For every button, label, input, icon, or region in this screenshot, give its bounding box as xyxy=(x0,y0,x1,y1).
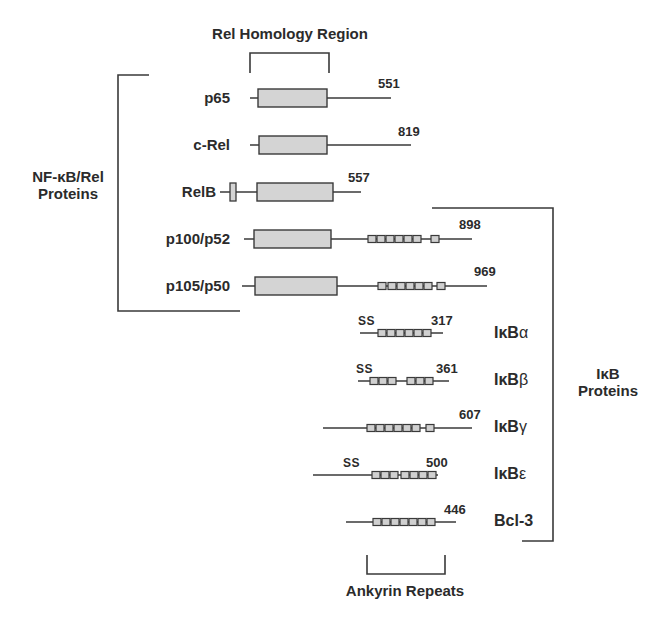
ankyrin-repeats-title: Ankyrin Repeats xyxy=(320,582,490,599)
nfkb-group-bracket xyxy=(118,75,240,311)
length-p100-p52: 898 xyxy=(459,217,481,232)
protein-name-ikb-gamma: IκBγ xyxy=(494,418,527,436)
protein-name-p65: p65 xyxy=(204,89,230,106)
rhr-domain-box xyxy=(258,89,327,107)
length-ikb-alpha: 317 xyxy=(431,313,453,328)
protein-ikb-alpha xyxy=(360,330,443,337)
protein-domain-diagram: Rel Homology Region Ankyrin Repeats NF-κ… xyxy=(0,0,658,617)
length-ikb-epsilon: 500 xyxy=(426,455,448,470)
ikb-group-label-line2: Proteins xyxy=(558,382,658,399)
ankyrin-repeats xyxy=(378,330,431,337)
protein-p105-p50 xyxy=(242,277,487,295)
protein-name-ikb-beta: IκBβ xyxy=(494,371,528,389)
length-bcl-3: 446 xyxy=(444,502,466,517)
protein-name-relb: RelB xyxy=(182,183,216,200)
length-relb: 557 xyxy=(348,170,370,185)
rel-homology-bracket xyxy=(250,53,329,73)
protein-relb xyxy=(220,183,361,201)
nfkb-group-label-line2: Proteins xyxy=(18,185,118,202)
protein-name-bcl-3: Bcl-3 xyxy=(494,512,533,530)
diagram-graphics xyxy=(0,0,658,617)
protein-ikb-epsilon xyxy=(313,472,438,479)
protein-p100-p52 xyxy=(244,230,472,248)
protein-bcl-3 xyxy=(346,519,456,526)
nfkb-group-label-line1: NF-κB/Rel xyxy=(18,168,118,185)
protein-c-rel xyxy=(250,136,411,154)
protein-name-c-rel: c-Rel xyxy=(193,136,230,153)
leucine-zipper-box xyxy=(230,183,236,201)
protein-name-p100-p52: p100/p52 xyxy=(166,230,230,247)
protein-name-p105-p50: p105/p50 xyxy=(166,277,230,294)
ikb-group-label-line1: IκB xyxy=(558,365,658,382)
length-ikb-beta: 361 xyxy=(436,361,458,376)
length-p65: 551 xyxy=(378,76,400,91)
length-ikb-gamma: 607 xyxy=(459,407,481,422)
ikb-group-label: IκB Proteins xyxy=(558,365,658,399)
protein-p65 xyxy=(250,89,391,107)
protein-ikb-beta xyxy=(358,378,449,385)
ankyrin-repeats xyxy=(372,472,436,479)
rhr-domain-box xyxy=(254,230,331,248)
rhr-domain-box xyxy=(259,136,327,154)
length-c-rel: 819 xyxy=(398,124,420,139)
protein-name-ikb-epsilon: IκBε xyxy=(494,465,526,483)
protein-ikb-gamma xyxy=(323,425,472,432)
length-p105-p50: 969 xyxy=(474,264,496,279)
rhr-domain-box xyxy=(257,183,333,201)
ankyrin-repeats xyxy=(373,519,435,526)
ss-label-ikb-beta: SS xyxy=(356,362,373,376)
rel-homology-region-title: Rel Homology Region xyxy=(200,25,380,42)
rhr-domain-box xyxy=(255,277,337,295)
ss-label-ikb-epsilon: SS xyxy=(343,456,360,470)
nfkb-group-label: NF-κB/Rel Proteins xyxy=(18,168,118,202)
ss-label-ikb-alpha: SS xyxy=(358,314,375,328)
ankyrin-bracket xyxy=(367,555,445,574)
protein-name-ikb-alpha: IκBα xyxy=(494,324,528,342)
